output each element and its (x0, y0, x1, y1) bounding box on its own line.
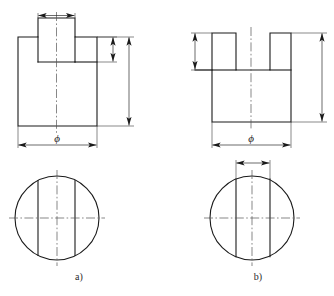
figure-a-boss-height-dimension (97, 37, 117, 62)
figure-b-caption: b) (254, 271, 262, 283)
figure-a-phi-label: ϕ (54, 132, 60, 144)
figure-b-slot-depth-dimension (191, 33, 212, 70)
figure-a-front-view (18, 12, 97, 133)
figure-a-caption: a) (75, 271, 83, 283)
figure-b-front-view (195, 27, 291, 130)
figure-a: ϕ a) (9, 12, 134, 283)
figure-b-top-view (204, 160, 300, 266)
engineering-drawing-sheet: ϕ a) (0, 0, 334, 296)
drawing-canvas: ϕ a) (0, 0, 334, 296)
figure-b-phi-label: ϕ (248, 132, 254, 144)
figure-b-diameter-dimension: ϕ (212, 122, 291, 148)
figure-b-outline (212, 33, 291, 122)
figure-b-total-height-dimension (291, 33, 327, 122)
figure-a-outline (18, 18, 97, 126)
figure-a-top-view (9, 170, 105, 266)
figure-a-total-height-dimension (97, 37, 134, 126)
figure-b: ϕ b) (191, 27, 327, 283)
figure-a-diameter-dimension: ϕ (18, 126, 97, 148)
